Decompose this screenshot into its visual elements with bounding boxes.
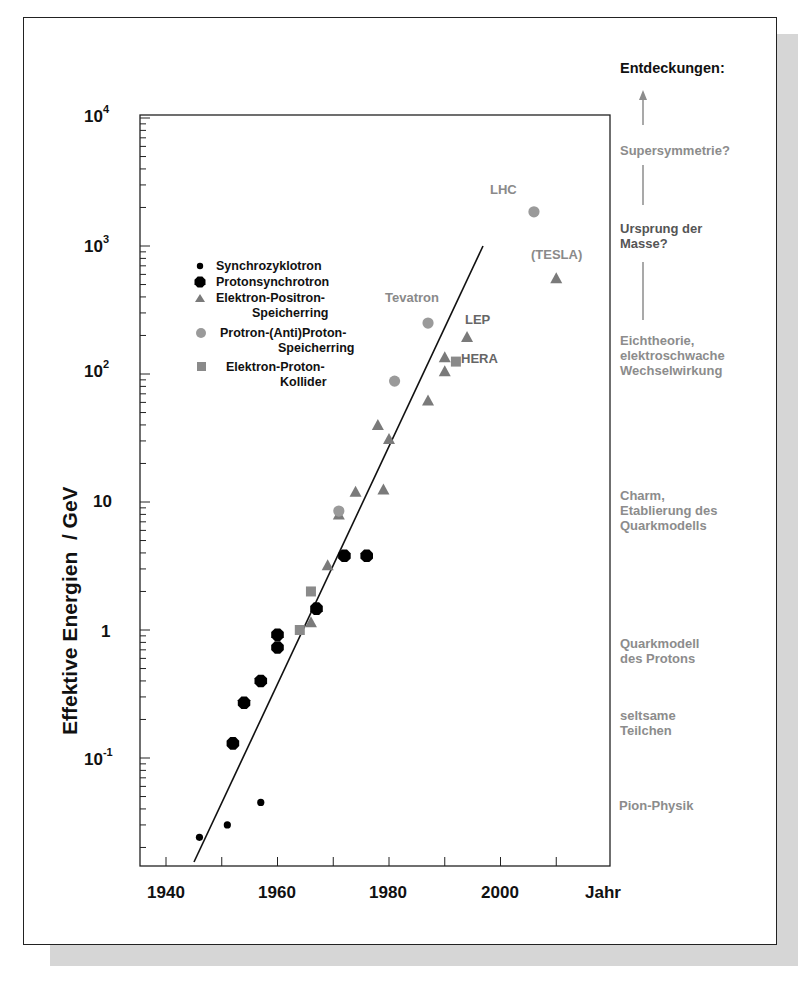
discoveries-column: Entdeckungen: Supersymmetrie? Ursprung d… xyxy=(619,60,730,813)
electron-positron-point xyxy=(377,484,389,495)
legend-label-ep-line1: Elektron-Positron- xyxy=(216,291,325,305)
legend-label-ep-line2: Speicherring xyxy=(252,306,328,320)
y-label-1: 1 xyxy=(101,622,110,641)
electron-proton-point xyxy=(451,357,461,367)
chart-canvas: 104 103 102 10 1 10-1 Effektive Energien… xyxy=(0,0,802,982)
protonsynchrotron-point xyxy=(255,675,268,688)
proton-antiproton-point xyxy=(333,505,344,516)
legend-marker-synchrozyklotron xyxy=(197,263,203,269)
legend-label-pp-line1: Protron-(Anti)Proton- xyxy=(220,326,346,340)
legend-marker-square xyxy=(197,362,206,371)
discovery-eichtheorie-line2: elektroschwache xyxy=(620,348,725,363)
proton-antiproton-point xyxy=(389,376,400,387)
legend-marker-protonsynchrotron xyxy=(195,277,206,288)
discovery-seltsame-line2: Teilchen xyxy=(620,723,672,738)
discovery-masse-line1: Ursprung der xyxy=(620,221,702,236)
proton-antiproton-point xyxy=(528,206,539,217)
discovery-quarkmodell-line2: des Protons xyxy=(620,651,695,666)
x-label-1960: 1960 xyxy=(258,883,296,902)
electron-positron-point xyxy=(350,486,362,497)
proton-antiproton-point xyxy=(422,317,433,328)
discovery-charm-line3: Quarkmodells xyxy=(620,518,707,533)
discovery-eichtheorie-line3: Wechselwirkung xyxy=(620,363,722,378)
protonsynchrotron-point xyxy=(338,550,351,563)
y-axis-title: Effektive Energien / GeV xyxy=(58,486,81,735)
arrow-up-icon xyxy=(639,90,647,100)
legend: Synchrozyklotron Protonsynchrotron Elekt… xyxy=(195,259,355,389)
synchrozyklotron-point xyxy=(196,834,203,841)
electron-positron-point xyxy=(439,351,451,362)
protonsynchrotron-point xyxy=(310,602,323,615)
discovery-quarkmodell-line1: Quarkmodell xyxy=(620,636,699,651)
electron-positron-point xyxy=(322,559,334,570)
legend-label-synchrozyklotron: Synchrozyklotron xyxy=(216,259,322,273)
discovery-charm-line1: Charm, xyxy=(620,488,665,503)
annotation-tesla: (TESLA) xyxy=(531,247,582,262)
x-label-1940: 1940 xyxy=(147,883,185,902)
protonsynchrotron-point xyxy=(238,697,251,710)
discovery-eichtheorie-line1: Eichtheorie, xyxy=(620,333,694,348)
electron-positron-point xyxy=(422,395,434,406)
y-label-1e4: 104 xyxy=(84,103,110,126)
x-axis-title: Jahr xyxy=(585,883,621,902)
annotation-lep: LEP xyxy=(465,312,491,327)
electron-positron-point xyxy=(439,365,451,376)
legend-marker-circle xyxy=(196,328,206,338)
protonsynchrotron-point xyxy=(360,550,373,563)
plot-area xyxy=(140,115,610,866)
y-label-10: 10 xyxy=(93,492,112,511)
protonsynchrotron-point xyxy=(227,737,240,750)
legend-marker-triangle xyxy=(195,294,205,302)
legend-label-epk-line2: Kollider xyxy=(280,375,327,389)
x-axis-ticks xyxy=(166,857,556,866)
electron-positron-point xyxy=(461,331,473,342)
electron-positron-point xyxy=(550,272,562,283)
annotation-hera: HERA xyxy=(461,351,498,366)
x-axis-labels: 1940 1960 1980 2000 Jahr xyxy=(147,883,621,902)
annotation-tevatron: Tevatron xyxy=(385,290,439,305)
legend-label-pp-line2: Speicherring xyxy=(278,341,354,355)
electron-proton-point xyxy=(295,625,305,635)
discovery-masse-line2: Masse? xyxy=(620,236,668,251)
annotation-lhc: LHC xyxy=(490,182,517,197)
y-axis-labels: 104 103 102 10 1 10-1 xyxy=(84,103,113,769)
y-label-1e2: 102 xyxy=(84,358,109,381)
legend-label-epk-line1: Elektron-Proton- xyxy=(226,360,325,374)
y-label-1e-1: 10-1 xyxy=(84,746,113,769)
electron-positron-point xyxy=(372,419,384,430)
protonsynchrotron-point xyxy=(271,628,284,641)
y-axis-ticks xyxy=(140,118,150,847)
discovery-supersymmetrie: Supersymmetrie? xyxy=(620,143,730,158)
discovery-seltsame-line1: seltsame xyxy=(620,708,676,723)
y-label-1e3: 103 xyxy=(84,233,109,256)
discovery-pion-physik: Pion-Physik xyxy=(619,798,694,813)
synchrozyklotron-point xyxy=(224,821,231,828)
x-label-1980: 1980 xyxy=(369,883,407,902)
electron-proton-point xyxy=(306,586,316,596)
x-label-2000: 2000 xyxy=(481,883,519,902)
discoveries-title: Entdeckungen: xyxy=(620,60,725,76)
legend-label-protonsynchrotron: Protonsynchrotron xyxy=(216,275,329,289)
discovery-charm-line2: Etablierung des xyxy=(620,503,718,518)
synchrozyklotron-point xyxy=(257,799,264,806)
protonsynchrotron-point xyxy=(271,641,284,654)
point-annotations: LHC (TESLA) Tevatron LEP HERA xyxy=(385,182,582,366)
